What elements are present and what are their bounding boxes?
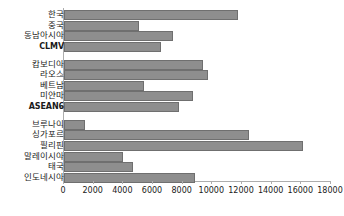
bar bbox=[64, 31, 173, 41]
x-axis-tick-label: 18000 bbox=[308, 186, 344, 195]
bar bbox=[64, 173, 195, 183]
category-label: 태국 bbox=[0, 161, 64, 172]
category-label: 싱가포르 bbox=[0, 129, 64, 140]
bar-rows: 한국중국동남아시아CLMV캄보디아라오스베트남미얀마ASEAN6브루나이싱가포르… bbox=[0, 0, 344, 181]
bar-chart: 한국중국동남아시아CLMV캄보디아라오스베트남미얀마ASEAN6브루나이싱가포르… bbox=[0, 0, 344, 216]
x-axis-tick bbox=[182, 181, 183, 184]
category-label: 미얀마 bbox=[0, 90, 64, 101]
bar-row: ASEAN6 bbox=[0, 102, 344, 113]
bar bbox=[64, 162, 133, 172]
bar bbox=[64, 60, 203, 70]
category-label: 라오스 bbox=[0, 69, 64, 80]
category-label: 한국 bbox=[0, 9, 64, 20]
bar bbox=[64, 120, 85, 130]
bar bbox=[64, 91, 193, 101]
bar bbox=[64, 152, 123, 162]
category-label: 필리핀 bbox=[0, 140, 64, 151]
bar bbox=[64, 42, 161, 52]
x-axis-tick bbox=[271, 181, 272, 184]
category-label: 캄보디아 bbox=[0, 59, 64, 70]
category-label: 중국 bbox=[0, 20, 64, 31]
bar bbox=[64, 130, 249, 140]
category-label: 브루나이 bbox=[0, 119, 64, 130]
bar bbox=[64, 10, 238, 20]
x-axis-tick bbox=[330, 181, 331, 184]
bar bbox=[64, 81, 144, 91]
x-axis-tick bbox=[152, 181, 153, 184]
category-label: 동남아시아 bbox=[0, 30, 64, 41]
category-label: 인도네시아 bbox=[0, 172, 64, 183]
bar bbox=[64, 21, 139, 31]
category-label: 베트남 bbox=[0, 80, 64, 91]
bar bbox=[64, 102, 179, 112]
x-axis-tick bbox=[241, 181, 242, 184]
bar bbox=[64, 141, 303, 151]
x-axis-tick bbox=[63, 181, 64, 184]
category-label: 말레이시아 bbox=[0, 151, 64, 162]
bar-row: CLMV bbox=[0, 42, 344, 53]
x-axis-tick bbox=[93, 181, 94, 184]
x-axis-tick bbox=[122, 181, 123, 184]
category-label: CLMV bbox=[0, 41, 64, 52]
x-axis-tick bbox=[211, 181, 212, 184]
x-axis-tick bbox=[300, 181, 301, 184]
bar bbox=[64, 70, 208, 80]
category-label: ASEAN6 bbox=[0, 101, 64, 112]
bar-row: 인도네시아 bbox=[0, 173, 344, 184]
